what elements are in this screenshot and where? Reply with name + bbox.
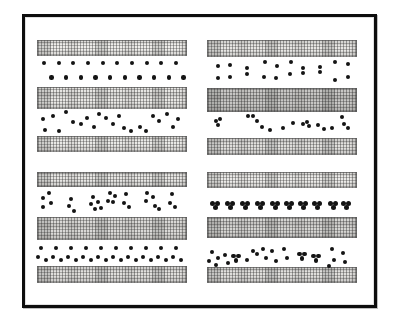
scanned-figure-page: [0, 0, 394, 326]
figure-frame: [22, 14, 377, 308]
